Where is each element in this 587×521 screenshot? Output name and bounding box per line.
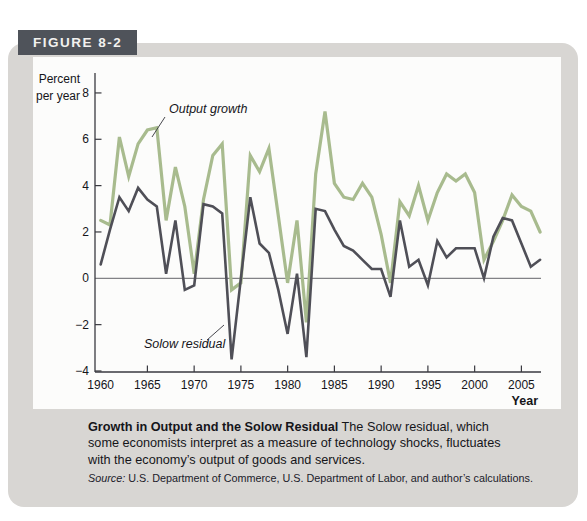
- output-growth-annotation: Output growth: [169, 102, 248, 116]
- y-axis-label-line2: per year: [36, 89, 80, 103]
- x-tick-label: 2000: [461, 378, 488, 392]
- source-prefix: Source:: [88, 472, 125, 484]
- solow-residual-annotation: Solow residual: [144, 337, 227, 351]
- y-tick-label: 6: [82, 132, 89, 146]
- y-tick-label: −4: [75, 364, 89, 378]
- figure-caption: Growth in Output and the Solow Residual …: [88, 419, 516, 468]
- x-tick-label: 1995: [415, 378, 442, 392]
- figure-page: 86420−2−41960196519701975198019851990199…: [0, 0, 587, 521]
- y-tick-label: 8: [82, 86, 89, 100]
- x-tick-label: 1980: [274, 378, 301, 392]
- x-tick-label: 1975: [228, 378, 255, 392]
- output-growth-line: [101, 112, 540, 323]
- y-axis-label-line1: Percent: [39, 72, 81, 86]
- y-tick-label: 2: [82, 225, 89, 239]
- figure-number-tag: FIGURE 8-2: [18, 30, 137, 55]
- x-tick-label: 1985: [321, 378, 348, 392]
- x-tick-label: 2005: [508, 378, 535, 392]
- caption-title: Growth in Output and the Solow Residual: [88, 420, 338, 434]
- x-tick-label: 1960: [87, 378, 114, 392]
- source-text: U.S. Department of Commerce, U.S. Depart…: [128, 472, 533, 484]
- y-tick-label: 4: [82, 179, 89, 193]
- x-tick-label: 1965: [134, 378, 161, 392]
- source-note: Source: U.S. Department of Commerce, U.S…: [88, 472, 548, 484]
- x-axis-label: Year: [512, 394, 539, 408]
- x-tick-label: 1990: [368, 378, 395, 392]
- y-tick-label: 0: [82, 271, 89, 285]
- x-tick-label: 1970: [181, 378, 208, 392]
- y-tick-label: −2: [75, 318, 89, 332]
